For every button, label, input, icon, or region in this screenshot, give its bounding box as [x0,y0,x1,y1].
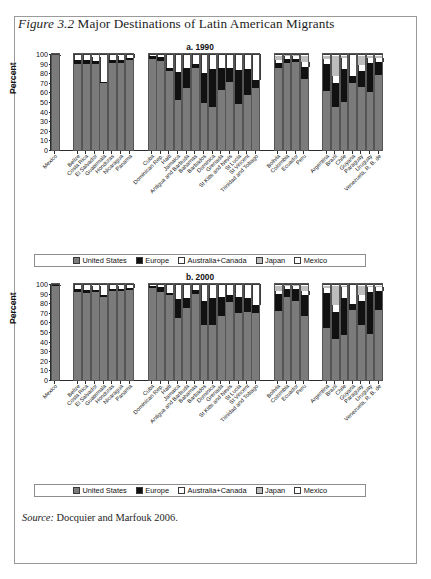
panel-title-1990: a. 1990 [10,42,390,52]
bar[interactable] [349,54,356,150]
bar[interactable] [292,54,299,150]
bar[interactable] [52,284,59,380]
bar[interactable] [209,54,216,150]
bar-segment-us [301,316,308,380]
bar[interactable] [301,54,308,150]
bar[interactable] [52,54,59,150]
legend-label: Japan [265,256,285,265]
bar[interactable] [83,284,90,380]
bar[interactable] [175,54,182,150]
legend-item: Japan [256,486,286,495]
bar[interactable] [358,54,365,150]
bar[interactable] [74,54,81,150]
bar[interactable] [349,284,356,380]
bar[interactable] [244,284,251,380]
bar[interactable] [201,284,208,380]
bar[interactable] [244,54,251,150]
bar[interactable] [92,284,99,380]
bar[interactable] [183,284,190,380]
bar[interactable] [149,54,156,150]
bar[interactable] [332,284,339,380]
bar[interactable] [275,54,282,150]
bar[interactable] [367,284,374,380]
legend-1990: United StatesEuropeAustralia+CanadaJapan… [34,254,366,267]
bar-segment-eu [235,70,242,104]
group-gap [260,54,274,150]
group-gap [60,284,74,380]
group-gap [309,54,323,150]
bar[interactable] [166,54,173,150]
bar[interactable] [109,54,116,150]
bar-group [322,54,383,150]
bar[interactable] [301,284,308,380]
legend-item: United States [73,486,127,495]
legend-swatch-mx [294,487,301,494]
bar[interactable] [341,54,348,150]
bar[interactable] [157,284,164,380]
bar-segment-us [332,339,339,380]
bar-segment-us [100,297,107,380]
bar[interactable] [192,54,199,150]
bar-segment-us [244,312,251,380]
bar[interactable] [375,284,382,380]
bar-segment-us [109,291,116,380]
bar[interactable] [323,284,330,380]
bar[interactable] [226,284,233,380]
bar[interactable] [252,54,259,150]
bar[interactable] [166,284,173,380]
bar[interactable] [183,54,190,150]
bar[interactable] [92,54,99,150]
group-gap [134,54,148,150]
bar-segment-ac [201,284,210,301]
bar-segment-us [183,308,190,380]
bar-segment-eu [341,69,348,102]
bar[interactable] [375,54,382,150]
bar[interactable] [284,284,291,380]
bar[interactable] [235,284,242,380]
bar-segment-us [209,107,216,150]
bar[interactable] [126,54,133,150]
bar[interactable] [201,54,208,150]
bar[interactable] [83,54,90,150]
bar[interactable] [118,284,125,380]
bar[interactable] [157,54,164,150]
bar[interactable] [209,284,216,380]
bar-segment-us [218,90,225,150]
bar[interactable] [284,54,291,150]
bar[interactable] [226,54,233,150]
bar-segment-ac [209,54,218,69]
bar-segment-us [292,301,299,380]
bar[interactable] [341,284,348,380]
bar-segment-ac [175,54,184,72]
legend-swatch-mx [294,257,301,264]
legend-item: Japan [256,256,286,265]
bar[interactable] [235,54,242,150]
bar[interactable] [218,284,225,380]
bar[interactable] [100,54,107,150]
bar[interactable] [252,284,259,380]
bar[interactable] [323,54,330,150]
bar[interactable] [192,284,199,380]
bar[interactable] [358,284,365,380]
bar[interactable] [367,54,374,150]
bar[interactable] [175,284,182,380]
legend-label: Europe [145,486,169,495]
bar[interactable] [332,54,339,150]
bar-segment-us [323,91,330,150]
x-tick-label: Mexico [42,153,59,170]
bar[interactable] [126,284,133,380]
bar[interactable] [218,54,225,150]
bar-segment-eu [226,295,233,302]
bar[interactable] [275,284,282,380]
bar[interactable] [100,284,107,380]
bar-segment-us [252,313,259,380]
legend-item: Europe [136,486,169,495]
bar[interactable] [118,54,125,150]
bar[interactable] [149,284,156,380]
bar[interactable] [109,284,116,380]
bar-segment-us [349,310,356,380]
bar[interactable] [292,284,299,380]
bar[interactable] [74,284,81,380]
bar-segment-us [358,325,365,380]
plot-area-1990: 0102030405060708090100 [50,54,383,151]
